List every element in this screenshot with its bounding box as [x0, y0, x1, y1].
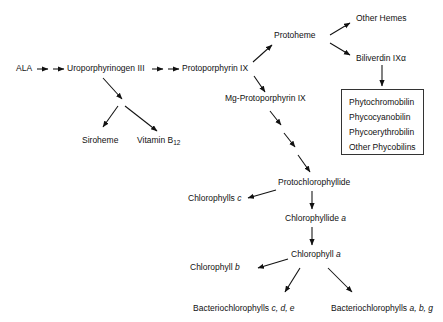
arrow-mg-3 — [298, 155, 310, 172]
node-biliverdin: Biliverdin IXα — [356, 54, 406, 63]
chlorophyll-b-label: Chlorophyll — [190, 262, 235, 272]
node-chlorophylls-c: Chlorophylls c — [188, 194, 241, 203]
node-vitamin-b12: Vitamin B12 — [137, 136, 180, 146]
bacteriochlorophylls-cde-italic: c, d, e — [271, 303, 294, 313]
phycobilin-item-phycoerythrobilin: Phycoerythrobilin — [349, 127, 414, 137]
chlorophylls-c-italic: c — [237, 193, 241, 203]
arrow-layer — [0, 0, 443, 322]
vitamin-b12-label: Vitamin B — [137, 135, 173, 145]
node-bacteriochlorophylls-cde: Bacteriochlorophylls c, d, e — [193, 304, 295, 313]
chlorophyll-a-label: Chlorophyll — [291, 249, 336, 259]
chlorophyll-a-italic: a — [336, 249, 341, 259]
node-ala: ALA — [16, 64, 32, 73]
arrow-bchl-cde — [285, 268, 300, 292]
node-other-hemes: Other Hemes — [356, 14, 407, 23]
node-protoporphyrin-ix: Protoporphyrin IX — [182, 64, 248, 73]
arrow-bchl-abg — [328, 268, 352, 292]
arrow-other-hemes — [330, 23, 350, 35]
node-chlorophyllide-a: Chlorophyllide a — [285, 214, 346, 223]
node-chlorophyll-b: Chlorophyll b — [190, 263, 240, 272]
node-protoheme: Protoheme — [274, 31, 316, 40]
arrow-mg-2 — [284, 133, 295, 147]
node-protochlorophyllide: Protochlorophyllide — [278, 178, 350, 187]
chlorophylls-c-label: Chlorophylls — [188, 193, 237, 203]
node-uroporphyrinogen-iii: Uroporphyrinogen III — [67, 64, 145, 73]
arrow-siroheme — [103, 106, 118, 127]
arrow-to-mgproto — [254, 76, 265, 92]
arrow-mg-1 — [270, 111, 281, 125]
bacteriochlorophylls-cde-label: Bacteriochlorophylls — [193, 303, 271, 313]
arrow-chlorophylls-c — [248, 190, 276, 198]
phycobilin-box: Phytochromobilin Phycocyanobilin Phycoer… — [341, 89, 424, 155]
chlorophyllide-a-label: Chlorophyllide — [285, 213, 341, 223]
bacteriochlorophylls-abg-label: Bacteriochlorophylls — [331, 303, 409, 313]
arrow-biliverdin — [330, 43, 350, 55]
arrow-uro-down — [103, 78, 122, 99]
phycobilin-item-other-phycobilins: Other Phycobilins — [349, 142, 416, 152]
node-chlorophyll-a: Chlorophyll a — [291, 250, 341, 259]
chlorophyllide-a-italic: a — [341, 213, 346, 223]
pathway-diagram: ALA Uroporphyrinogen III Siroheme Vitami… — [0, 0, 443, 322]
chlorophyll-b-italic: b — [235, 262, 240, 272]
bacteriochlorophylls-abg-italic: a, b, g — [409, 303, 433, 313]
arrow-to-protoheme — [253, 45, 272, 62]
vitamin-b12-subscript: 12 — [173, 139, 180, 146]
node-siroheme: Siroheme — [82, 136, 118, 145]
phycobilin-item-phytochromobilin: Phytochromobilin — [349, 97, 414, 107]
node-bacteriochlorophylls-abg: Bacteriochlorophylls a, b, g — [331, 304, 433, 313]
arrow-vitaminb12 — [125, 106, 157, 131]
arrow-chlorophyll-b — [258, 259, 288, 268]
phycobilin-item-phycocyanobilin: Phycocyanobilin — [349, 112, 410, 122]
node-mg-protoporphyrin-ix: Mg-Protoporphyrin IX — [225, 94, 306, 103]
